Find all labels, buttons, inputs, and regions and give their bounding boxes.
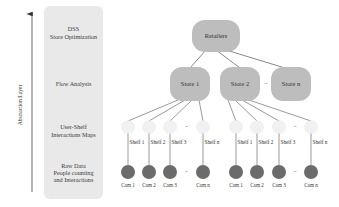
camera-label: Cam n [304, 182, 318, 188]
camera-node [229, 165, 243, 179]
layer-label: Raw Data [61, 162, 86, 169]
shelf-label: Shelf n [313, 139, 328, 145]
group-ellipsis: – [293, 168, 297, 174]
camera-node [304, 165, 318, 179]
shelf-label: Shelf n [205, 139, 220, 145]
layer-label: People counting [53, 169, 93, 176]
camera-node [196, 165, 210, 179]
hierarchy-diagram: Abstraction Layer DSSStore OptimizationF… [0, 0, 339, 207]
store-label: Store 2 [231, 80, 249, 87]
shelf-node [230, 121, 243, 134]
edge-store-shelf [249, 100, 311, 121]
edge-store-shelf [149, 100, 185, 121]
edge-retailers-store [190, 50, 206, 68]
layer-label: DSS [68, 25, 80, 32]
edge-store-shelf [235, 100, 257, 121]
camera-label: Cam 2 [250, 182, 264, 188]
edge-store-shelf [242, 100, 279, 121]
camera-label: Cam 2 [142, 182, 156, 188]
shelf-node [305, 121, 318, 134]
camera-label: Cam 3 [163, 182, 177, 188]
shelf-node [122, 121, 135, 134]
group-ellipsis: – [184, 123, 188, 129]
layer-label: Interactions Maps [51, 131, 96, 138]
store-ellipsis: – [264, 80, 268, 86]
shelf-label: Shelf 1 [130, 139, 145, 145]
camera-label: Cam 3 [272, 182, 286, 188]
store-label: Store n [282, 80, 301, 87]
shelf-node [251, 121, 264, 134]
abstraction-axis-label: Abstraction Layer [17, 85, 23, 126]
edge-store-shelf [199, 100, 203, 121]
camera-node [142, 165, 156, 179]
shelf-node [273, 121, 286, 134]
camera-node [272, 165, 286, 179]
camera-node [250, 165, 264, 179]
layer-label: User-Shelf [60, 123, 88, 130]
camera-node [163, 165, 177, 179]
camera-label: Cam 1 [121, 182, 135, 188]
edge-retailers-store [226, 50, 285, 68]
layer-label: and Interactions [54, 176, 94, 183]
layer-label: Store Optimization [50, 33, 97, 40]
shelf-node [197, 121, 210, 134]
edge-retailers-store [216, 50, 240, 68]
edge-store-shelf [170, 100, 192, 121]
shelf-label: Shelf 3 [281, 139, 296, 145]
shelf-node [143, 121, 156, 134]
retailers-label: Retailers [205, 32, 228, 39]
layer-label: Flow Analysis [56, 80, 92, 87]
shelf-node [164, 121, 177, 134]
shelf-label: Shelf 3 [172, 139, 187, 145]
camera-node [121, 165, 135, 179]
edge-store-shelf [228, 100, 236, 121]
shelf-label: Shelf 2 [259, 139, 274, 145]
shelf-label: Shelf 2 [151, 139, 166, 145]
edge-store-shelf [128, 100, 178, 121]
shelf-label: Shelf 1 [238, 139, 253, 145]
camera-label: Cam n [196, 182, 210, 188]
store-label: Store 1 [181, 80, 199, 87]
group-ellipsis: – [293, 123, 297, 129]
camera-label: Cam 1 [229, 182, 243, 188]
group-ellipsis: – [184, 168, 188, 174]
